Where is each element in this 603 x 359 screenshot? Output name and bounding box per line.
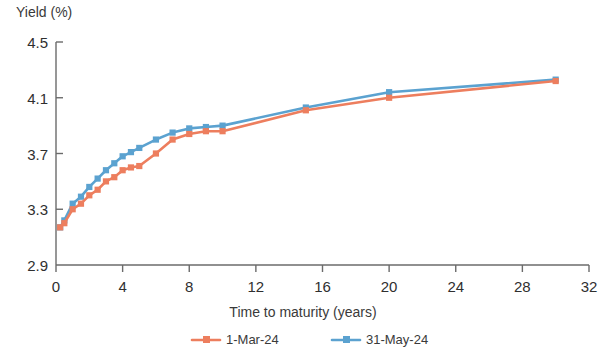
data-point	[86, 184, 92, 190]
data-point	[86, 192, 92, 198]
data-point	[111, 174, 117, 180]
chart-canvas: Yield (%) 2.93.33.74.14.5 04812162024283…	[0, 0, 603, 359]
data-point	[95, 187, 101, 193]
data-point	[186, 131, 192, 137]
x-tick-label: 28	[514, 278, 531, 295]
y-tick-label: 4.1	[27, 90, 48, 107]
x-axis-ticks: 048121620242832	[52, 265, 598, 295]
data-point	[153, 136, 159, 142]
series-line	[60, 81, 556, 227]
legend-label: 31-May-24	[366, 332, 428, 347]
series-31-may-24	[57, 77, 559, 231]
data-point	[61, 220, 67, 226]
legend-label: 1-Mar-24	[226, 332, 279, 347]
x-tick-label: 24	[447, 278, 464, 295]
x-tick-label: 0	[52, 278, 60, 295]
data-point	[153, 150, 159, 156]
data-point	[111, 160, 117, 166]
data-point	[120, 167, 126, 173]
legend-swatch-marker	[343, 336, 350, 343]
data-point	[70, 201, 76, 207]
x-tick-label: 16	[314, 278, 331, 295]
data-point	[95, 175, 101, 181]
data-point	[128, 149, 134, 155]
data-point	[78, 194, 84, 200]
data-point	[219, 128, 225, 134]
x-tick-label: 20	[381, 278, 398, 295]
x-tick-label: 4	[118, 278, 126, 295]
data-point	[78, 201, 84, 207]
series-layer	[57, 77, 559, 231]
y-tick-label: 2.9	[27, 257, 48, 274]
data-point	[553, 78, 559, 84]
x-tick-label: 32	[581, 278, 598, 295]
data-point	[203, 128, 209, 134]
x-tick-label: 8	[185, 278, 193, 295]
y-tick-label: 4.5	[27, 34, 48, 51]
legend-swatch-marker	[203, 336, 210, 343]
data-point	[120, 153, 126, 159]
data-point	[219, 123, 225, 129]
yield-curve-chart: Yield (%) 2.93.33.74.14.5 04812162024283…	[0, 0, 603, 359]
data-point	[169, 136, 175, 142]
x-tick-label: 12	[248, 278, 265, 295]
y-axis-title: Yield (%)	[16, 4, 72, 20]
y-axis-ticks: 2.93.33.74.14.5	[27, 34, 63, 274]
x-axis-title: Time to maturity (years)	[229, 304, 376, 320]
series-line	[60, 80, 556, 228]
data-point	[169, 129, 175, 135]
data-point	[103, 167, 109, 173]
data-point	[128, 164, 134, 170]
data-point	[386, 89, 392, 95]
data-point	[136, 145, 142, 151]
data-point	[103, 178, 109, 184]
chart-legend: 1-Mar-2431-May-24	[192, 332, 428, 347]
data-point	[386, 95, 392, 101]
data-point	[303, 107, 309, 113]
data-point	[70, 206, 76, 212]
y-tick-label: 3.3	[27, 201, 48, 218]
data-point	[136, 163, 142, 169]
y-tick-label: 3.7	[27, 146, 48, 163]
data-point	[186, 125, 192, 131]
